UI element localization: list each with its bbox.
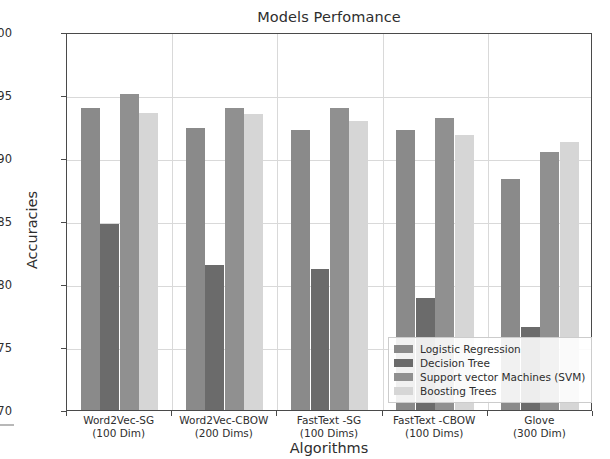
x-tick-label: FastText -CBOW(100 Dims) — [393, 414, 475, 440]
legend-swatch — [394, 359, 413, 367]
legend-item: Boosting Trees — [394, 384, 586, 398]
y-tick-label: 0.75 — [0, 341, 12, 355]
y-tick-label: 0.90 — [0, 152, 12, 166]
x-tick-label-line2: (200 Dims) — [179, 427, 268, 440]
bar — [244, 114, 263, 410]
bar — [349, 121, 368, 410]
x-tick-mark — [276, 411, 277, 416]
x-tick-mark — [66, 411, 67, 416]
y-tick-label: 0.80 — [0, 278, 12, 292]
x-tick-label: Glove(300 Dim) — [513, 414, 566, 440]
x-tick-label-line1: Word2Vec-SG — [83, 414, 154, 426]
legend-label: Boosting Trees — [420, 385, 497, 397]
chart-legend: Logistic RegressionDecision TreeSupport … — [388, 337, 592, 403]
x-tick-label-line1: Glove — [524, 414, 554, 426]
bar — [311, 269, 330, 410]
bar — [100, 224, 119, 410]
bar — [205, 265, 224, 410]
y-tick-label: 0.95 — [0, 89, 12, 103]
x-tick-label-line2: (100 Dims) — [297, 427, 361, 440]
bar — [186, 128, 205, 410]
x-axis-label: Algorithms — [66, 440, 592, 456]
x-tick-label: FastText -SG(100 Dims) — [297, 414, 361, 440]
x-tick-label: Word2Vec-SG(100 Dim) — [83, 414, 154, 440]
legend-label: Decision Tree — [420, 357, 490, 369]
chart-figure: Models Perfomance 0.700.750.800.850.900.… — [0, 0, 610, 459]
chart-title: Models Perfomance — [66, 9, 592, 25]
x-tick-label-line1: FastText -CBOW — [393, 414, 475, 426]
gridline-vertical — [277, 34, 278, 410]
x-tick-mark — [592, 411, 593, 416]
bar-group — [186, 34, 264, 410]
gridline-vertical — [383, 34, 384, 410]
y-axis-label: Accuracies — [24, 130, 40, 330]
legend-swatch — [394, 387, 413, 395]
x-tick-label-line2: (100 Dim) — [83, 427, 154, 440]
x-tick-label-line2: (300 Dim) — [513, 427, 566, 440]
legend-item: Support vector Machines (SVM) — [394, 370, 586, 384]
legend-swatch — [394, 373, 413, 381]
scan-artifact-left — [0, 424, 14, 426]
bar — [139, 113, 158, 410]
x-tick-mark — [382, 411, 383, 416]
bar — [225, 108, 244, 410]
bar — [120, 94, 139, 410]
bar — [81, 108, 100, 410]
x-tick-mark — [487, 411, 488, 416]
legend-swatch — [394, 345, 413, 353]
legend-item: Decision Tree — [394, 356, 586, 370]
legend-label: Support vector Machines (SVM) — [420, 371, 585, 383]
y-tick-label: 0.85 — [0, 215, 12, 229]
gridline-vertical — [172, 34, 173, 410]
x-tick-label-line1: FastText -SG — [297, 414, 361, 426]
x-tick-label-line1: Word2Vec-CBOW — [179, 414, 268, 426]
legend-item: Logistic Regression — [394, 342, 586, 356]
y-tick-label: 0.70 — [0, 404, 12, 418]
x-tick-label: Word2Vec-CBOW(200 Dims) — [179, 414, 268, 440]
y-tick-label: 1.00 — [0, 26, 12, 40]
bar — [291, 130, 310, 410]
legend-label: Logistic Regression — [420, 343, 521, 355]
bar-group — [81, 34, 159, 410]
x-tick-label-line2: (100 Dims) — [393, 427, 475, 440]
x-tick-mark — [171, 411, 172, 416]
bar — [330, 108, 349, 410]
bar-group — [291, 34, 369, 410]
